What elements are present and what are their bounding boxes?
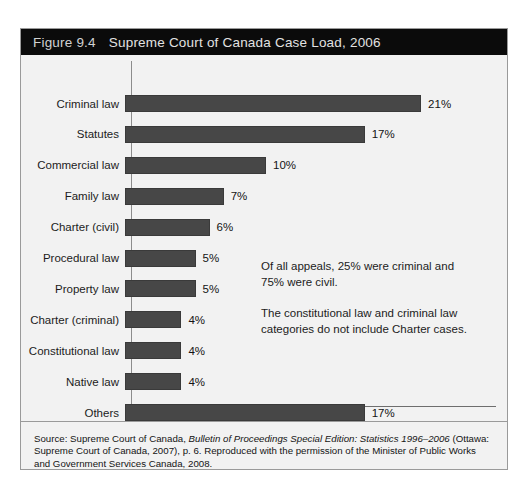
figure-number: Figure 9.4 [33, 35, 96, 50]
bar-category-label: Native law [21, 376, 125, 388]
bar [125, 126, 365, 143]
bar-value-label: 17% [372, 128, 395, 140]
bar-value-label: 7% [231, 190, 248, 202]
bar [125, 311, 181, 328]
bar-category-label: Property law [21, 283, 125, 295]
bar-category-label: Commercial law [21, 159, 125, 171]
source-publication-title: Bulletin of Proceedings Special Edition:… [189, 433, 450, 444]
bar-chart-plot: Criminal law21%Statutes17%Commercial law… [21, 55, 507, 421]
bar-value-label: 4% [188, 376, 205, 388]
source-prefix: Source: Supreme Court of Canada, [34, 433, 189, 444]
bar-value-label: 21% [428, 98, 451, 110]
bar [125, 342, 181, 359]
bar-value-label: 5% [203, 252, 220, 264]
figure-panel: Figure 9.4 Supreme Court of Canada Case … [20, 28, 508, 470]
bar-row: Constitutional law4% [21, 335, 507, 366]
bar-track: 7% [125, 181, 507, 212]
bar-track: 10% [125, 150, 507, 181]
bar-value-label: 6% [217, 221, 234, 233]
figure-title: Supreme Court of Canada Case Load, 2006 [109, 35, 381, 50]
bar-category-label: Charter (criminal) [21, 314, 125, 326]
bar [125, 373, 181, 390]
annotation-text: The constitutional law and criminal law … [261, 306, 471, 337]
bar-value-label: 10% [273, 159, 296, 171]
bar [125, 188, 224, 205]
bar-value-label: 4% [188, 314, 205, 326]
bar-row: Native law4% [21, 366, 507, 397]
bar-track: 6% [125, 212, 507, 243]
bar [125, 250, 196, 267]
bar-track: 4% [125, 335, 507, 366]
bar-category-label: Statutes [21, 128, 125, 140]
bar-track: 17% [125, 119, 507, 150]
bar-row: Commercial law10% [21, 150, 507, 181]
chart-annotations: Of all appeals, 25% were criminal and 75… [261, 259, 471, 337]
bar-row: Others17% [21, 397, 507, 428]
bar-track: 17% [125, 397, 507, 428]
bar-row: Criminal law21% [21, 88, 507, 119]
bar-value-label: 4% [188, 345, 205, 357]
chart-area: Criminal law21%Statutes17%Commercial law… [21, 55, 507, 421]
annotation-text: Of all appeals, 25% were criminal and 75… [261, 259, 471, 290]
bar-category-label: Procedural law [21, 252, 125, 264]
bar-value-label: 17% [372, 407, 395, 419]
source-note: Source: Supreme Court of Canada, Bulleti… [21, 422, 507, 470]
bar [125, 219, 210, 236]
bar-track: 21% [125, 88, 507, 119]
bar-row: Family law7% [21, 181, 507, 212]
bar [125, 280, 196, 297]
bar-value-label: 5% [203, 283, 220, 295]
bar [125, 404, 365, 421]
bar-category-label: Others [21, 407, 125, 419]
bar-row: Statutes17% [21, 119, 507, 150]
bar-row: Charter (civil)6% [21, 212, 507, 243]
bar-category-label: Constitutional law [21, 345, 125, 357]
figure-header: Figure 9.4 Supreme Court of Canada Case … [21, 29, 507, 55]
bar-category-label: Charter (civil) [21, 221, 125, 233]
bar [125, 95, 421, 112]
bar [125, 157, 266, 174]
bar-category-label: Family law [21, 190, 125, 202]
bar-category-label: Criminal law [21, 98, 125, 110]
bar-track: 4% [125, 366, 507, 397]
